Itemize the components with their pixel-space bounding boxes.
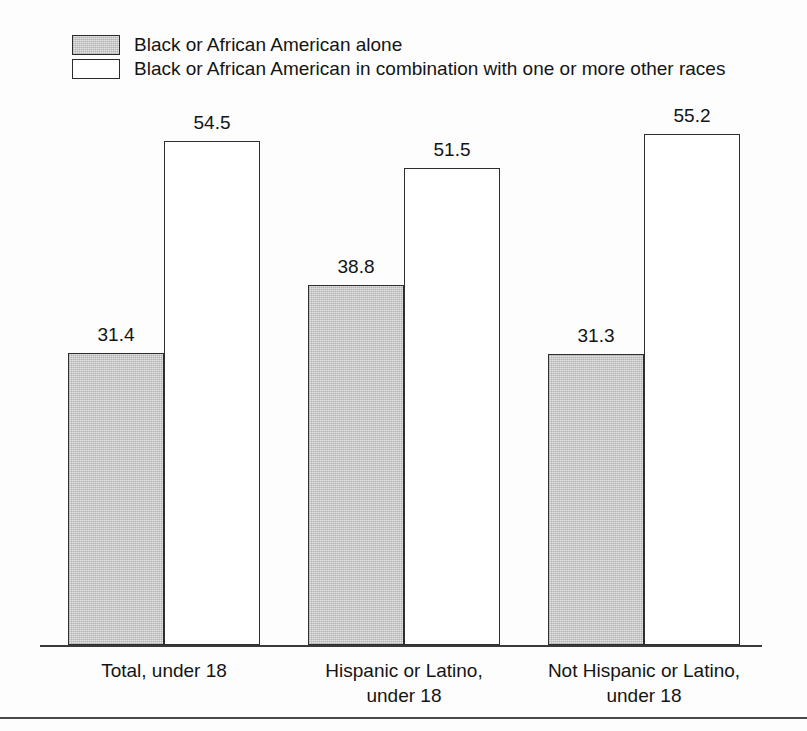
chart-figure: Black or African American alone Black or… — [0, 0, 807, 731]
category-label-not-hispanic-line1: Not Hispanic or Latino, — [534, 658, 754, 683]
plot-area: 31.4 54.5 38.8 51.5 31.3 55.2 Total, und… — [0, 0, 807, 731]
category-label-hispanic-line1: Hispanic or Latino, — [294, 658, 514, 683]
bar-value-not-hispanic-alone: 31.3 — [548, 326, 644, 345]
bar-value-hispanic-alone: 38.8 — [308, 257, 404, 276]
bar-hispanic-alone — [308, 285, 404, 645]
bar-value-total-combination: 54.5 — [164, 113, 260, 132]
category-label-total: Total, under 18 — [54, 658, 274, 683]
bar-total-alone — [68, 353, 164, 645]
footer-divider — [0, 717, 807, 719]
bar-not-hispanic-combination — [644, 134, 740, 645]
category-label-not-hispanic: Not Hispanic or Latino, under 18 — [534, 658, 754, 708]
bar-value-hispanic-combination: 51.5 — [404, 140, 500, 159]
category-label-hispanic-line2: under 18 — [294, 683, 514, 708]
category-label-not-hispanic-line2: under 18 — [534, 683, 754, 708]
bar-total-combination — [164, 141, 260, 645]
bar-hispanic-combination — [404, 168, 500, 645]
bar-not-hispanic-alone — [548, 354, 644, 645]
bar-value-not-hispanic-combination: 55.2 — [644, 106, 740, 125]
bar-value-total-alone: 31.4 — [68, 325, 164, 344]
category-label-hispanic: Hispanic or Latino, under 18 — [294, 658, 514, 708]
x-axis-baseline — [40, 645, 762, 647]
category-label-total-line1: Total, under 18 — [54, 658, 274, 683]
